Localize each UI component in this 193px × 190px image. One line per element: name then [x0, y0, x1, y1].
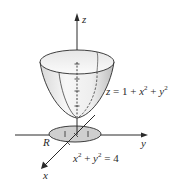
x-axis-label: x — [43, 170, 48, 181]
z-axis-arrow-icon — [75, 13, 80, 21]
paraboloid-diagram: z y x R z = 1 + x2 + y2 x2 + y2 = 4 — [0, 0, 193, 190]
eq-power: 2 — [164, 84, 168, 92]
paraboloid-surface — [40, 50, 114, 118]
y-axis-label: y — [141, 138, 146, 149]
eq-op: = 1 + — [110, 85, 139, 97]
surface-equation: z = 1 + x2 + y2 — [106, 85, 168, 97]
region-equation: x2 + y2 = 4 — [73, 152, 119, 164]
eq-plus: + — [81, 152, 93, 164]
z-axis-label: z — [82, 14, 86, 25]
eq-rhs: = 4 — [102, 152, 119, 164]
eq-plus: + — [148, 85, 160, 97]
region-label: R — [43, 137, 50, 148]
